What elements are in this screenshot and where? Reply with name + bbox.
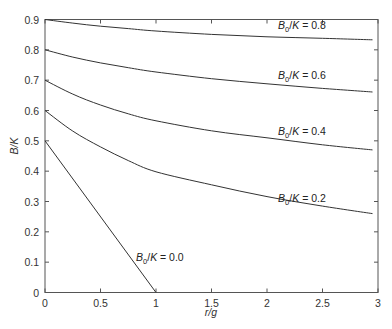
y-tick-label: 0.4 — [24, 165, 39, 177]
y-tick-label: 0.2 — [24, 226, 39, 238]
curves — [45, 20, 373, 293]
y-tick-label: 0.6 — [24, 105, 39, 117]
y-tick-label: 0.3 — [24, 196, 39, 208]
x-tick-label: 0 — [42, 297, 48, 309]
y-tick-label: 0 — [33, 287, 39, 299]
x-axis-ticks: 00.511.522.53 — [42, 20, 381, 309]
y-axis-ticks: 00.10.20.30.40.50.60.70.80.9 — [24, 14, 378, 299]
x-tick-label: 3 — [375, 297, 381, 309]
y-tick-label: 0.9 — [24, 14, 39, 26]
plot-border — [45, 20, 378, 293]
x-tick-label: 2 — [264, 297, 270, 309]
x-tick-label: 1 — [153, 297, 159, 309]
curve-b0-k-0-4 — [45, 80, 373, 150]
curve-label: B0/K = 0.8 — [278, 19, 326, 34]
x-tick-label: 2.5 — [315, 297, 330, 309]
y-tick-label: 0.8 — [24, 44, 39, 56]
curve-b0-k-0-0 — [45, 141, 156, 293]
x-axis-title: r/g — [205, 306, 217, 318]
y-tick-label: 0.5 — [24, 135, 39, 147]
curve-label: B0/K = 0.6 — [278, 69, 326, 84]
curve-label: B0/K = 0.2 — [278, 192, 326, 207]
curve-label: B0/K = 0.0 — [136, 251, 184, 266]
x-tick-label: 0.5 — [93, 297, 108, 309]
y-tick-label: 0.1 — [24, 256, 39, 268]
curve-label: B0/K = 0.4 — [278, 125, 326, 140]
line-chart: 00.511.522.53 00.10.20.30.40.50.60.70.80… — [0, 0, 392, 329]
y-tick-label: 0.7 — [24, 74, 39, 86]
y-axis-title: B/K — [8, 137, 20, 155]
plot-frame — [45, 20, 378, 293]
